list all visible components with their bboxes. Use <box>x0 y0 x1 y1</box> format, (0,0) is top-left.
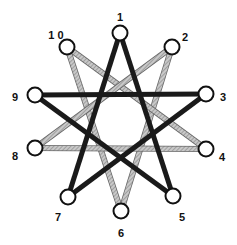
black-edges <box>35 33 206 197</box>
node-3 <box>199 87 214 102</box>
node-label-6: 6 <box>118 227 124 239</box>
node-9 <box>28 88 43 103</box>
gray-edges <box>35 47 206 211</box>
node-label-7: 7 <box>55 211 61 223</box>
node-7 <box>61 190 76 205</box>
nodes <box>28 26 214 219</box>
star-diagram: 1234567891 0 <box>0 0 237 245</box>
node-6 <box>114 204 129 219</box>
node-label-1: 1 <box>117 11 123 23</box>
node-5 <box>166 189 181 204</box>
node-10 <box>60 40 75 55</box>
edge-fill-2-6 <box>121 47 172 211</box>
edge-1-5 <box>120 33 173 196</box>
node-8 <box>28 141 43 156</box>
node-label-8: 8 <box>12 150 18 162</box>
node-label-4: 4 <box>219 151 226 163</box>
node-label-2: 2 <box>182 31 188 43</box>
node-2 <box>165 40 180 55</box>
edge-fill-6-10 <box>67 47 121 211</box>
node-1 <box>113 26 128 41</box>
node-label-10: 1 0 <box>48 29 63 41</box>
node-label-5: 5 <box>179 211 185 223</box>
node-label-9: 9 <box>12 91 18 103</box>
node-4 <box>199 142 214 157</box>
edge-9-3 <box>35 94 206 95</box>
edge-fill-4-8 <box>35 148 206 149</box>
node-label-3: 3 <box>220 91 226 103</box>
